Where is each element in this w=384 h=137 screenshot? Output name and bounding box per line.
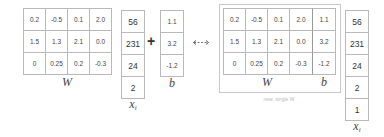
right-x-cell: 231: [345, 32, 369, 55]
right-w-cell: 1.3: [245, 30, 268, 53]
left-b-cell: 1.1: [160, 10, 184, 33]
left-b-cell: -1.2: [160, 54, 184, 77]
right-w-cell: -0.3: [289, 52, 313, 75]
left-w-cell: 2.1: [67, 30, 90, 53]
left-x-cell: 56: [121, 10, 145, 33]
left-x-cell: 231: [121, 32, 145, 55]
right-w-cell: 0.2: [267, 52, 290, 75]
right-w-cell: 0.1: [267, 8, 290, 31]
left-b-label: b: [160, 76, 184, 91]
right-w-cell: 0: [223, 52, 246, 75]
left-x-cell: 2: [121, 76, 145, 99]
left-x-cell: 24: [121, 54, 145, 77]
double-arrow-icon: [192, 39, 210, 46]
right-w-cell: 2.1: [267, 30, 290, 53]
left-w-cell: 0.1: [67, 8, 90, 31]
left-w-cell: 2.0: [89, 8, 112, 31]
left-w-cell: -0.5: [45, 8, 68, 31]
left-w-cell: 0.0: [89, 30, 112, 53]
left-w-cell: 1.5: [23, 30, 46, 53]
right-b-cell: -1.2: [312, 52, 336, 75]
right-x-cell: 1: [345, 98, 369, 121]
right-x-cell: 56: [345, 10, 369, 33]
left-w-cell: 0.25: [45, 52, 68, 75]
right-x-cell: 2: [345, 76, 369, 99]
left-w-cell: 1.3: [45, 30, 68, 53]
right-b-cell: 1.1: [312, 8, 336, 31]
left-b-cell: 3.2: [160, 32, 184, 55]
left-w-cell: 0.2: [23, 8, 46, 31]
right-w-cell: 1.5: [223, 30, 246, 53]
right-x-cell: 24: [345, 54, 369, 77]
right-b-label: b: [312, 75, 336, 90]
left-w-cell: 0.2: [67, 52, 90, 75]
left-w-cell: -0.3: [89, 52, 112, 75]
plus-operator: +: [147, 33, 155, 49]
left-x-label: xi: [121, 97, 145, 112]
combined-caption: new, single W: [254, 96, 304, 102]
right-w-cell: -0.5: [245, 8, 268, 31]
right-b-cell: 3.2: [312, 30, 336, 53]
right-w-cell: 0.25: [245, 52, 268, 75]
right-w-label: W: [255, 75, 279, 90]
right-w-cell: 0.0: [289, 30, 313, 53]
left-w-label: W: [55, 75, 79, 90]
left-w-cell: 0: [23, 52, 46, 75]
right-x-label: xi: [345, 119, 369, 134]
right-w-cell: 2.0: [289, 8, 313, 31]
right-w-cell: 0.2: [223, 8, 246, 31]
